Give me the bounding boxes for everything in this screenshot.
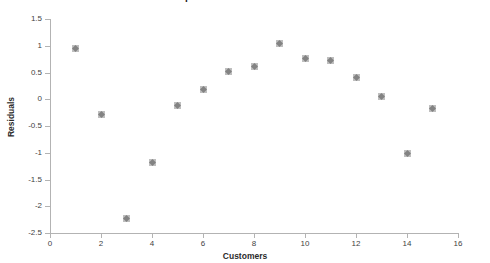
x-tick-mark — [50, 233, 51, 238]
x-tick-label: 0 — [35, 240, 65, 248]
x-axis-title: Customers — [0, 251, 490, 261]
y-tick-label: 1 — [2, 42, 42, 50]
data-point-marker[interactable] — [378, 93, 385, 100]
x-tick-label: 2 — [86, 240, 116, 248]
data-point-marker[interactable] — [123, 215, 130, 222]
data-point-marker[interactable] — [429, 105, 436, 112]
y-tick-label: -1.5 — [2, 176, 42, 184]
data-point-marker[interactable] — [72, 45, 79, 52]
y-tick-label: 0.5 — [2, 69, 42, 77]
x-tick-label: 14 — [392, 240, 422, 248]
data-point-marker[interactable] — [301, 55, 308, 62]
data-point-marker[interactable] — [276, 40, 283, 47]
data-point-marker[interactable] — [148, 159, 155, 166]
x-tick-mark — [254, 233, 255, 238]
x-tick-label: 4 — [137, 240, 167, 248]
chart-title: Scatterplot of Residuals vs Customers — [0, 0, 490, 2]
plot-area — [50, 19, 458, 233]
x-tick-label: 12 — [341, 240, 371, 248]
x-tick-mark — [305, 233, 306, 238]
x-tick-mark — [101, 233, 102, 238]
x-tick-mark — [152, 233, 153, 238]
x-tick-mark — [407, 233, 408, 238]
data-point-marker[interactable] — [225, 68, 232, 75]
x-tick-label: 10 — [290, 240, 320, 248]
x-tick-mark — [356, 233, 357, 238]
scatter-chart: Scatterplot of Residuals vs Customers 1.… — [0, 0, 490, 263]
x-tick-mark — [203, 233, 204, 238]
data-point-marker[interactable] — [327, 57, 334, 64]
x-tick-label: 16 — [443, 240, 473, 248]
data-point-marker[interactable] — [352, 74, 359, 81]
y-tick-label: 1.5 — [2, 15, 42, 23]
y-tick-label: -2.5 — [2, 229, 42, 237]
data-point-marker[interactable] — [199, 86, 206, 93]
data-point-marker[interactable] — [97, 111, 104, 118]
data-point-marker[interactable] — [174, 102, 181, 109]
y-axis-title: Residuals — [6, 82, 16, 152]
x-tick-label: 8 — [239, 240, 269, 248]
data-point-marker[interactable] — [250, 63, 257, 70]
x-tick-mark — [458, 233, 459, 238]
data-point-marker[interactable] — [403, 150, 410, 157]
y-tick-label: -2 — [2, 202, 42, 210]
x-tick-label: 6 — [188, 240, 218, 248]
